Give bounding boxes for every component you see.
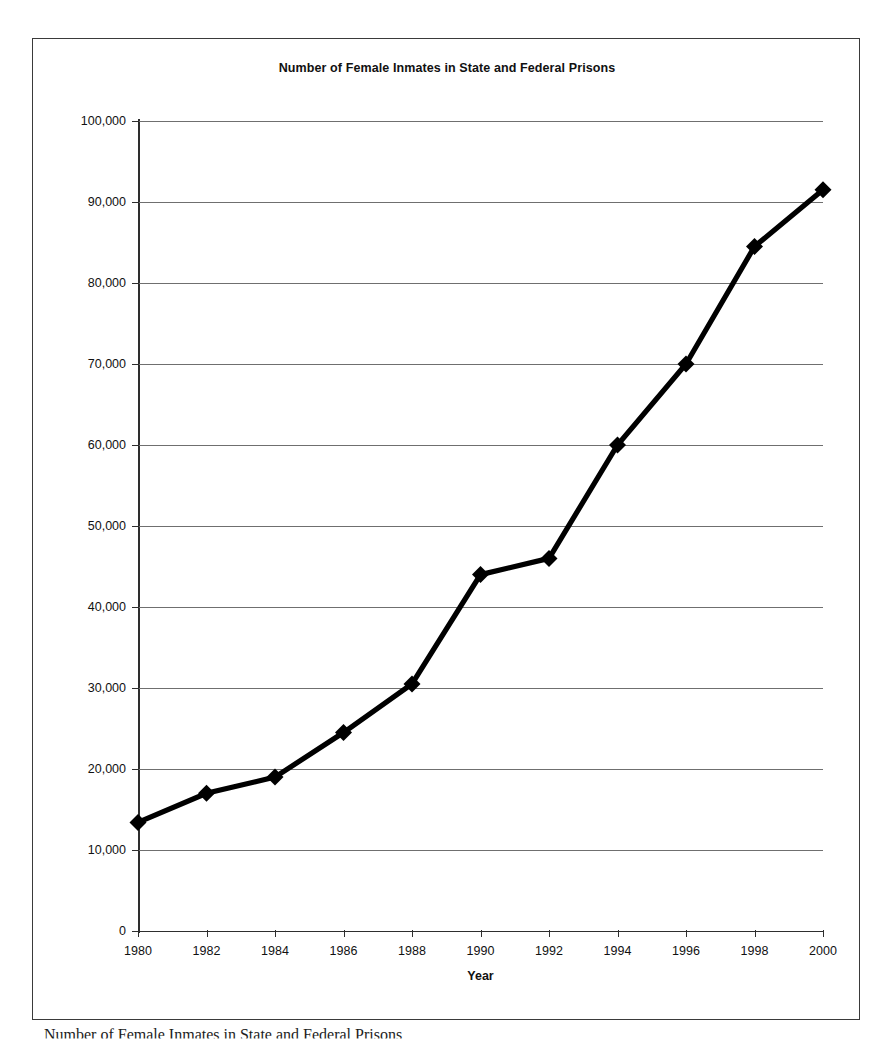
x-tick-label-1998: 1998 bbox=[741, 944, 769, 958]
x-tick-label-1988: 1988 bbox=[398, 944, 426, 958]
x-tick-label-1994: 1994 bbox=[604, 944, 632, 958]
y-tick-label-30000: 30,000 bbox=[52, 681, 126, 695]
data-point-1980 bbox=[130, 814, 147, 831]
y-tick-label-90000: 90,000 bbox=[52, 195, 126, 209]
figure-frame: Number of Female Inmates in State and Fe… bbox=[32, 38, 860, 1020]
x-tick-mark-1980 bbox=[138, 930, 139, 937]
y-tick-label-10000: 10,000 bbox=[52, 843, 126, 857]
chart-title: Number of Female Inmates in State and Fe… bbox=[33, 61, 861, 75]
y-tick-label-50000: 50,000 bbox=[52, 519, 126, 533]
series-inmates bbox=[138, 121, 823, 931]
y-tick-label-80000: 80,000 bbox=[52, 276, 126, 290]
figure-caption: Number of Female Inmates in State and Fe… bbox=[44, 1026, 744, 1049]
x-tick-mark-1992 bbox=[549, 930, 550, 937]
x-tick-label-1996: 1996 bbox=[672, 944, 700, 958]
y-tick-label-40000: 40,000 bbox=[52, 600, 126, 614]
x-tick-mark-2000 bbox=[823, 930, 824, 937]
x-tick-mark-1998 bbox=[755, 930, 756, 937]
x-tick-label-1990: 1990 bbox=[467, 944, 495, 958]
x-axis-title: Year bbox=[138, 969, 823, 983]
x-tick-mark-1984 bbox=[275, 930, 276, 937]
x-tick-mark-1996 bbox=[686, 930, 687, 937]
x-tick-mark-1982 bbox=[207, 930, 208, 937]
y-tick-label-60000: 60,000 bbox=[52, 438, 126, 452]
x-tick-label-1992: 1992 bbox=[535, 944, 563, 958]
x-tick-mark-1986 bbox=[344, 930, 345, 937]
y-tick-label-0: 0 bbox=[52, 924, 126, 938]
x-tick-label-1986: 1986 bbox=[330, 944, 358, 958]
x-tick-mark-1988 bbox=[412, 930, 413, 937]
x-tick-label-1984: 1984 bbox=[261, 944, 289, 958]
x-tick-label-1980: 1980 bbox=[124, 944, 152, 958]
y-tick-label-70000: 70,000 bbox=[52, 357, 126, 371]
x-tick-label-2000: 2000 bbox=[809, 944, 837, 958]
x-tick-mark-1994 bbox=[618, 930, 619, 937]
data-point-1982 bbox=[198, 785, 215, 802]
series-line-inmates bbox=[138, 190, 823, 823]
x-axis-tick-labels: 1980198219841986198819901992199419961998… bbox=[138, 944, 823, 966]
y-tick-label-100000: 100,000 bbox=[52, 114, 126, 128]
x-tick-label-1982: 1982 bbox=[193, 944, 221, 958]
series-markers bbox=[130, 181, 832, 831]
y-tick-label-20000: 20,000 bbox=[52, 762, 126, 776]
plot-area bbox=[138, 121, 823, 931]
x-tick-mark-1990 bbox=[481, 930, 482, 937]
